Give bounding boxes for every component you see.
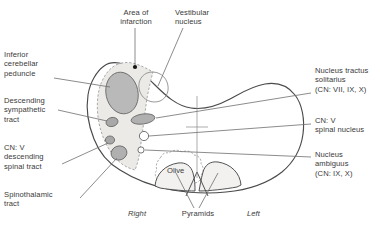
label-nucleus-ambiguus: Nucleus ambiguus (CN: IX, X): [315, 150, 379, 178]
nucleus-ambiguus-shape: [138, 147, 144, 153]
label-pyramids: Pyramids: [170, 209, 226, 218]
label-descending-sympathetic-tract: Descending sympathetic tract: [4, 96, 66, 124]
label-cn-v-spinal-nucleus: CN: V spinal nucleus: [315, 116, 379, 135]
medulla-cross-section-figure: Area of infarction Vestibular nucleus In…: [0, 0, 380, 232]
label-olive: Olive: [167, 166, 184, 175]
leader-spinothalamic-tract: [80, 158, 117, 198]
label-spinothalamic-tract: Spinothalamic tract: [4, 190, 76, 209]
cn-v-descending-spinal-tract-shape: [105, 136, 114, 144]
label-cn-v-descending-spinal-tract: CN: V descending spinal tract: [4, 143, 66, 171]
label-inferior-cerebellar-peduncle: Inferior cerebellar peduncle: [4, 50, 66, 78]
label-area-of-infarction: Area of infarction: [105, 8, 167, 27]
label-vestibular-nucleus: Vestibular nucleus: [175, 8, 237, 27]
label-side-right: Right: [128, 209, 146, 218]
leader-vestibular-nucleus: [158, 28, 183, 86]
label-nucleus-tractus-solitarius: Nucleus tractus solitarius (CN: VII, IX,…: [315, 66, 379, 94]
cn-v-spinal-nucleus-shape: [139, 131, 148, 140]
area-of-infarction-marker-dot: [133, 65, 137, 69]
label-side-left: Left: [247, 209, 260, 218]
